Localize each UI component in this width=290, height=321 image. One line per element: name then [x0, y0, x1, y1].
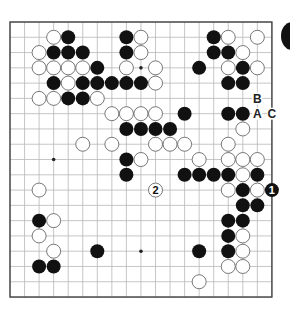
white-stone	[76, 137, 90, 151]
white-stone	[47, 61, 61, 75]
black-stone	[76, 76, 90, 90]
white-stone	[149, 137, 163, 151]
black-stone	[47, 259, 61, 273]
white-stone	[250, 153, 264, 167]
white-stone	[236, 244, 250, 258]
black-stone	[119, 30, 133, 44]
black-stone	[221, 244, 235, 258]
white-stone	[250, 30, 264, 44]
black-stone	[207, 30, 221, 44]
white-stone	[236, 229, 250, 243]
white-stone	[61, 76, 75, 90]
white-stone	[61, 61, 75, 75]
black-stone	[178, 168, 192, 182]
white-stone	[221, 30, 235, 44]
black-stone	[61, 46, 75, 60]
white-stone	[250, 183, 264, 197]
point-label-c: C	[268, 107, 277, 121]
black-stone	[221, 76, 235, 90]
white-stone	[236, 168, 250, 182]
white-stone	[250, 61, 264, 75]
black-stone	[236, 214, 250, 228]
black-stone	[236, 61, 250, 75]
white-stone	[105, 137, 119, 151]
black-stone	[149, 122, 163, 136]
white-stone	[134, 153, 148, 167]
black-stone	[119, 168, 133, 182]
black-stone	[32, 214, 46, 228]
white-stone	[163, 137, 177, 151]
white-stone	[221, 137, 235, 151]
white-stone	[90, 91, 104, 105]
black-stone	[61, 91, 75, 105]
black-stone	[207, 46, 221, 60]
point-label-a: A	[253, 107, 262, 121]
white-stone	[236, 259, 250, 273]
black-stone	[221, 168, 235, 182]
white-stone	[134, 30, 148, 44]
black-stone	[236, 76, 250, 90]
move-number: 1	[269, 184, 275, 196]
white-stone	[149, 76, 163, 90]
white-stone	[47, 91, 61, 105]
black-stone	[134, 122, 148, 136]
white-stone	[134, 46, 148, 60]
black-stone	[192, 244, 206, 258]
white-stone	[32, 91, 46, 105]
black-stone	[163, 122, 177, 136]
black-stone	[134, 76, 148, 90]
go-board: 12 BAC	[0, 0, 290, 321]
white-stone	[236, 153, 250, 167]
black-stone	[236, 198, 250, 212]
black-stone	[221, 46, 235, 60]
point-labels: BAC	[252, 92, 277, 121]
white-stone	[221, 61, 235, 75]
white-stone	[236, 46, 250, 60]
star-point	[52, 158, 56, 162]
black-stone	[250, 168, 264, 182]
white-stone	[149, 107, 163, 121]
black-stone	[32, 259, 46, 273]
black-stone	[47, 46, 61, 60]
white-stone	[192, 153, 206, 167]
white-stone	[221, 153, 235, 167]
black-stone	[105, 76, 119, 90]
white-stone	[32, 61, 46, 75]
black-stone	[90, 76, 104, 90]
white-stone	[32, 46, 46, 60]
white-stone	[236, 122, 250, 136]
black-stone	[119, 122, 133, 136]
black-stone	[119, 46, 133, 60]
black-stone	[119, 76, 133, 90]
black-stone	[192, 168, 206, 182]
white-stone	[76, 61, 90, 75]
black-stone	[61, 30, 75, 44]
black-stone	[192, 61, 206, 75]
white-stone	[119, 107, 133, 121]
move-number: 2	[152, 184, 158, 196]
black-stone	[76, 91, 90, 105]
white-stone	[105, 107, 119, 121]
star-point	[139, 66, 143, 70]
black-stone	[221, 229, 235, 243]
star-point	[139, 249, 143, 253]
black-stone	[207, 168, 221, 182]
black-stone	[90, 244, 104, 258]
white-stone	[192, 275, 206, 289]
black-stone	[221, 107, 235, 121]
black-stone	[178, 107, 192, 121]
black-stone	[236, 107, 250, 121]
black-stone	[250, 198, 264, 212]
black-stone	[221, 214, 235, 228]
white-stone	[47, 214, 61, 228]
white-stone	[134, 107, 148, 121]
white-stone	[47, 30, 61, 44]
white-stone	[47, 244, 61, 258]
white-stone	[178, 137, 192, 151]
black-stone	[236, 183, 250, 197]
white-stone	[119, 61, 133, 75]
white-stone	[149, 61, 163, 75]
black-stone	[119, 153, 133, 167]
white-stone	[32, 183, 46, 197]
black-stone	[47, 76, 61, 90]
